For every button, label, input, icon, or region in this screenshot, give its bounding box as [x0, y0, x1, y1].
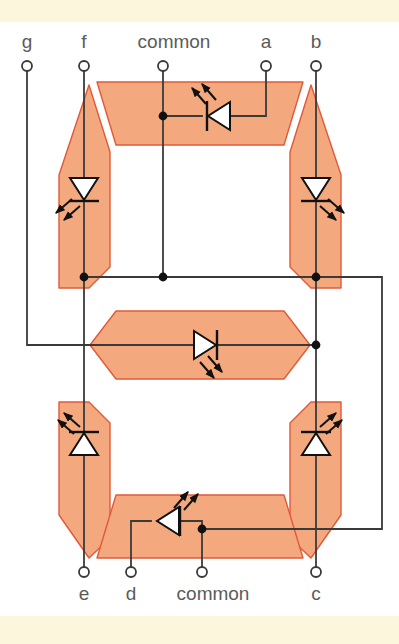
node-f-bus: [80, 273, 89, 282]
pin-label-common-bottom: common: [177, 583, 250, 604]
terminal-post-f[interactable]: [79, 61, 89, 71]
pin-label-c: c: [311, 583, 321, 604]
terminal-post-common-top[interactable]: [158, 61, 168, 71]
terminal-post-e[interactable]: [79, 567, 89, 577]
pin-label-common-top: common: [138, 31, 211, 52]
terminal-post-g[interactable]: [22, 61, 32, 71]
pin-label-a: a: [261, 31, 272, 52]
pin-label-b: b: [311, 31, 322, 52]
terminal-post-common-bottom[interactable]: [197, 567, 207, 577]
node-d-common: [198, 525, 207, 534]
segment-a-top: [97, 82, 303, 145]
seven-segment-led-schematic: g f common a b e d common c: [0, 0, 399, 644]
pin-label-g: g: [22, 31, 33, 52]
terminal-post-b[interactable]: [311, 61, 321, 71]
terminal-post-c[interactable]: [311, 567, 321, 577]
pin-label-f: f: [81, 31, 87, 52]
terminal-post-d[interactable]: [126, 567, 136, 577]
segment-shapes: [59, 82, 341, 558]
pin-label-d: d: [126, 583, 137, 604]
node-a-common: [159, 112, 168, 121]
node-g-right: [312, 341, 321, 350]
terminal-post-a[interactable]: [261, 61, 271, 71]
node-b-bus: [312, 273, 321, 282]
pin-label-e: e: [79, 583, 90, 604]
node-common-bus: [159, 273, 168, 282]
figure-canvas: g f common a b e d common c: [0, 0, 399, 644]
